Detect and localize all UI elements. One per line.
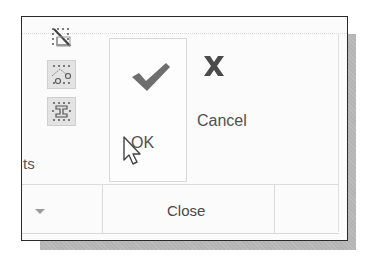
chevron-down-icon[interactable] xyxy=(35,209,45,214)
panel-label-close: Close xyxy=(167,202,205,219)
cancel-button[interactable] xyxy=(188,38,268,182)
mouse-pointer-icon xyxy=(122,136,144,168)
trim-diagonal-icon xyxy=(49,25,75,51)
footer-divider-left xyxy=(102,185,103,233)
x-icon xyxy=(202,55,226,77)
cancel-label: Cancel xyxy=(197,112,247,130)
i-beam-snap-icon xyxy=(48,98,75,125)
polygon-points-button[interactable] xyxy=(47,60,76,89)
footer-divider-right xyxy=(274,185,275,233)
trim-diagonal-button[interactable] xyxy=(49,25,75,51)
ok-button[interactable]: OK xyxy=(109,38,187,182)
i-beam-snap-button[interactable] xyxy=(47,97,76,126)
check-icon xyxy=(130,61,172,93)
truncated-group-label: ts xyxy=(23,155,35,172)
panel-footer: Close xyxy=(22,185,339,233)
bottom-line xyxy=(22,233,339,234)
polygon-points-icon xyxy=(48,61,75,88)
ribbon-close-panel: ts xyxy=(21,16,348,241)
